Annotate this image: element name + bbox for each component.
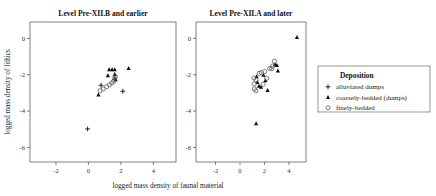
legend-label-0: alluviated dumps [336,83,384,91]
legend-label-2: finely-bedded [336,104,375,112]
data-point-plus [85,127,90,132]
data-point-circle [261,82,265,86]
x-tick-label: -2 [213,167,219,174]
x-tick-label: 2 [263,167,266,174]
plot-frame-2 [196,22,306,162]
x-axis-label: logged mass density of faunal material [112,182,223,190]
y-tick-label: 0 [188,35,192,42]
x-tick-label: 0 [238,167,242,174]
y-tick-label: -6 [20,144,26,151]
x-tick-label: 4 [287,167,291,174]
y-tick-label: 0 [22,35,26,42]
legend-label-1: coarsely-bedded (dumps) [336,94,408,102]
data-point-triangle [276,68,280,72]
x-tick-label: 4 [152,167,156,174]
figure-container: Level Pre-XII.B and earlier-20240-2-4-6L… [0,0,436,196]
data-point-circle [272,59,276,63]
series-triangle [254,35,299,125]
y-axis-label: logged mass density of lithics [4,49,12,135]
legend: Depositionalluviated dumpscoarsely-bedde… [318,66,430,112]
x-tick-label: 0 [87,167,91,174]
y-tick-label: -2 [186,71,192,78]
data-point-triangle [254,121,258,125]
panel-1: Level Pre-XII.B and earlier-20240-2-4-6 [20,9,177,174]
y-tick-label: -2 [20,71,26,78]
data-point-triangle [266,88,270,92]
data-point-triangle [295,35,299,39]
y-tick-label: -4 [20,107,26,114]
x-tick-label: 2 [119,167,122,174]
y-tick-label: -6 [186,144,192,151]
panel-2: Level Pre-XII.A and later-20240-2-4-6 [186,9,307,174]
panel-title-2: Level Pre-XII.A and later [210,9,294,18]
data-point-triangle [106,73,110,77]
plot-frame-1 [30,22,176,162]
scatter-plot-figure: Level Pre-XII.B and earlier-20240-2-4-6L… [0,0,436,196]
data-point-circle [265,76,269,80]
x-tick-label: -2 [53,167,59,174]
data-point-triangle [127,66,131,70]
panel-title-1: Level Pre-XII.B and earlier [58,9,148,18]
y-tick-label: -4 [186,107,192,114]
data-point-plus [120,89,125,94]
legend-title: Deposition [340,71,374,80]
